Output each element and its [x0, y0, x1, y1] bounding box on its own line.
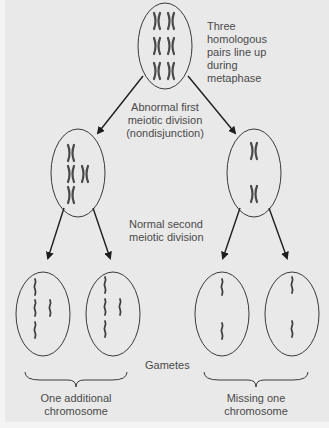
label-second-division: Normal second meiotic division — [129, 218, 204, 244]
brace-left — [25, 372, 127, 387]
label-first-division: Abnormal first meiotic division (nondisj… — [118, 101, 212, 140]
gamete-3 — [195, 272, 249, 356]
brace-right — [204, 372, 308, 387]
label-metaphase: Three homologous pairs line up during me… — [207, 20, 267, 85]
daughter-cell-right — [227, 129, 281, 217]
arrow-second-division-3 — [223, 208, 240, 258]
parent-cell — [138, 3, 192, 89]
gamete-4 — [265, 272, 319, 356]
gamete-1 — [16, 272, 70, 356]
arrow-second-division-1 — [48, 208, 64, 258]
label-gametes: Gametes — [145, 359, 190, 372]
arrow-second-division-2 — [93, 208, 110, 258]
label-missing-one: Missing one chromosome — [206, 392, 306, 418]
gamete-2 — [86, 272, 140, 356]
arrow-second-division-4 — [269, 208, 287, 258]
label-one-additional: One additional chromosome — [26, 392, 126, 418]
daughter-cell-left — [51, 129, 105, 217]
